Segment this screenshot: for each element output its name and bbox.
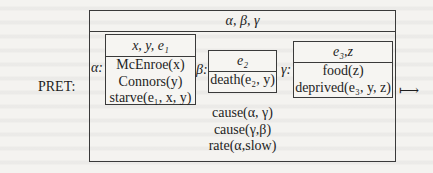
beta-drs-conditions: death(e₂, y) <box>209 72 276 89</box>
gamma-condition: deprived(e₃, y, z) <box>294 80 392 97</box>
alpha-drs-universe: x, y, e₁ <box>106 35 195 57</box>
alpha-drs-conditions: McEnroe(x) Connors(y) starve(e₁, x, y) <box>106 57 195 107</box>
maps-to-arrow-icon: ⟼ <box>399 82 419 99</box>
outer-drs-conditions: cause(α, γ) cause(γ,β) rate(α,slow) <box>90 105 395 155</box>
gamma-universe-text: e₃,z <box>294 42 392 62</box>
beta-condition: death(e₂, y) <box>209 72 276 89</box>
beta-label: β: <box>196 62 208 78</box>
gamma-drs-universe: e₃,z <box>294 42 392 63</box>
alpha-condition: starve(e₁, x, y) <box>106 90 195 107</box>
pret-label: PRET: <box>38 79 75 95</box>
alpha-condition: Connors(y) <box>106 74 195 91</box>
outer-condition: rate(α,slow) <box>90 138 395 155</box>
alpha-condition: McEnroe(x) <box>106 57 195 74</box>
gamma-condition: food(z) <box>294 63 392 80</box>
outer-drs-universe: α, β, γ <box>90 11 395 32</box>
gamma-drs-conditions: food(z) deprived(e₃, y, z) <box>294 63 392 96</box>
outer-universe-text: α, β, γ <box>90 11 395 31</box>
gamma-drs-box: e₃,z food(z) deprived(e₃, y, z) <box>293 41 393 98</box>
beta-universe-text: e₂ <box>209 51 276 71</box>
outer-condition: cause(α, γ) <box>90 105 395 122</box>
gamma-label: γ: <box>281 62 291 78</box>
alpha-universe-text: x, y, e₁ <box>106 35 195 56</box>
beta-drs-universe: e₂ <box>209 51 276 72</box>
alpha-drs-box: x, y, e₁ McEnroe(x) Connors(y) starve(e₁… <box>105 34 196 105</box>
beta-drs-box: e₂ death(e₂, y) <box>208 50 277 93</box>
alpha-label: α: <box>91 60 103 76</box>
outer-condition: cause(γ,β) <box>90 122 395 139</box>
